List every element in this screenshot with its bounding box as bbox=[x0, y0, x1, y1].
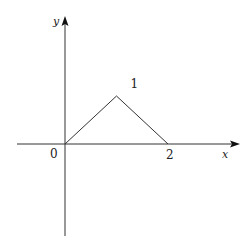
peak-label: 1 bbox=[131, 77, 139, 91]
origin-label: 0 bbox=[50, 147, 58, 161]
y-axis-label: y bbox=[52, 15, 60, 28]
series-layer bbox=[65, 96, 168, 144]
x-tick-label-2: 2 bbox=[166, 148, 174, 162]
chart: x y 0 1 2 bbox=[0, 0, 252, 251]
x-axis-label: x bbox=[222, 148, 229, 161]
series-line-triangle bbox=[65, 96, 168, 144]
